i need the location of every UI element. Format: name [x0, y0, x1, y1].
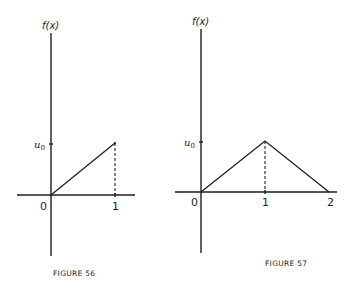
x-tick-label-1: 1 [112, 200, 119, 213]
x-tick-label-1: 1 [262, 196, 269, 209]
y-tick-label: u0 [34, 139, 45, 152]
y-axis-label: f(x) [192, 16, 209, 27]
x-tick-label-0: 0 [191, 196, 198, 209]
x-tick-label-0: 0 [40, 200, 47, 213]
figure-canvas: f(x) u0 0 1 FIGURE 56 f(x) u0 0 1 2 FIGU… [0, 0, 353, 287]
y-axis-label: f(x) [42, 20, 59, 31]
figure-56: f(x) u0 0 1 FIGURE 56 [17, 20, 135, 278]
ramp-line [51, 143, 115, 195]
figure-caption: FIGURE 56 [53, 269, 95, 278]
figure-57: f(x) u0 0 1 2 FIGURE 57 [175, 16, 337, 268]
figure-caption: FIGURE 57 [265, 259, 307, 268]
peak-dot [114, 142, 116, 144]
x-tick-label-2: 2 [327, 196, 334, 209]
y-tick-label: u0 [184, 137, 195, 150]
